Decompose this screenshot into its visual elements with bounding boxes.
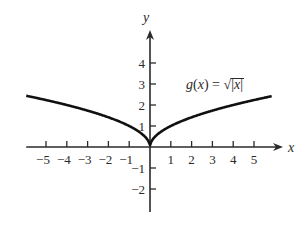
axes: −5−4−3−2−112345 −2−11234 x y: [26, 10, 295, 212]
x-tick-label: 3: [209, 152, 216, 167]
x-tick-label: −2: [98, 152, 112, 167]
function-label: g(x) = √|x|: [186, 77, 243, 93]
x-tick-label: 2: [188, 152, 195, 167]
y-tick-label: −2: [131, 182, 145, 197]
y-tick-label: −1: [131, 161, 145, 176]
function-graph: −5−4−3−2−112345 −2−11234 x y g(x) = √|x|: [0, 0, 305, 242]
curve-g-of-x: [26, 96, 271, 145]
x-tick-label: 5: [251, 152, 258, 167]
y-tick-label: 3: [139, 77, 146, 92]
y-ticks: −2−11234: [131, 56, 156, 197]
x-tick-label: 1: [168, 152, 175, 167]
fn-equals: =: [209, 77, 224, 92]
plot-area: −5−4−3−2−112345 −2−11234 x y g(x) = √|x|: [0, 0, 305, 242]
y-tick-label: 2: [139, 98, 146, 113]
x-tick-label: −3: [78, 152, 92, 167]
y-axis-label: y: [141, 10, 150, 25]
fn-name: g: [186, 77, 193, 92]
x-tick-label: −4: [57, 152, 71, 167]
x-ticks: −5−4−3−2−112345: [36, 141, 257, 167]
fn-abs-close: |: [240, 77, 243, 92]
x-tick-label: −5: [36, 152, 50, 167]
x-axis-label: x: [287, 140, 295, 155]
y-tick-label: 4: [139, 56, 146, 71]
x-tick-label: 4: [230, 152, 237, 167]
series-curves: [26, 96, 271, 145]
